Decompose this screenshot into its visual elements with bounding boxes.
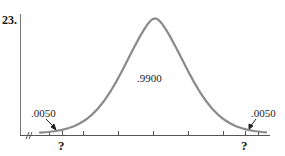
right-boundary-unknown: ?: [241, 139, 248, 152]
left-tail-area-label: .0050: [31, 108, 56, 119]
right-tail-arrow-icon: [249, 119, 256, 129]
left-tail-arrow-icon: [46, 119, 56, 130]
left-boundary-unknown: ?: [58, 139, 65, 152]
problem-number: 23.: [2, 14, 17, 26]
center-area-label: .9900: [137, 73, 162, 84]
x-axis-ticks: [50, 131, 259, 135]
right-tail-area-label: .0050: [251, 108, 276, 119]
